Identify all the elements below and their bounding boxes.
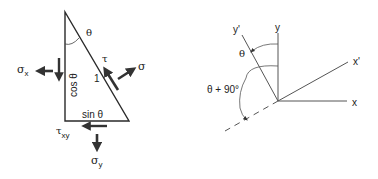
sin-theta-label: sin θ [82, 109, 104, 120]
cos-theta-label: cos θ [68, 73, 79, 97]
theta-plus-90-arc [240, 66, 278, 119]
theta-angle-arc [65, 38, 79, 44]
y-prime-axis-label: y' [233, 24, 240, 35]
theta-arc [252, 44, 278, 51]
triangle-element [65, 12, 129, 121]
x-prime-axis [278, 62, 348, 101]
sigma-y-label: σy [91, 154, 103, 169]
tau-label: τ [102, 53, 108, 64]
theta-angle-label: θ [239, 48, 245, 59]
y-axis-label: y [275, 22, 280, 33]
diagram-canvas: θ 1 τ σ σx cos θ sin θ τxy σy [0, 0, 378, 179]
sigma-label: σ [138, 60, 146, 73]
rotated-axes-diagram: y x x' y' θ θ + 90° [207, 22, 360, 131]
hypotenuse-length-label: 1 [94, 73, 100, 84]
sigma-x-label: σx [17, 63, 29, 78]
stress-triangle-diagram: θ 1 τ σ σx cos θ sin θ τxy σy [17, 12, 146, 169]
sigma-normal-arrow [118, 70, 132, 79]
x-axis-label: x [352, 97, 357, 108]
x-prime-axis-label: x' [353, 56, 360, 67]
y-prime-axis [242, 35, 278, 101]
tau-xy-label: τxy [56, 125, 70, 140]
tau-shear-arrow [106, 71, 118, 90]
dashed-reference-line [225, 101, 278, 131]
theta-plus-90-label: θ + 90° [207, 84, 239, 95]
theta-label: θ [86, 27, 92, 38]
